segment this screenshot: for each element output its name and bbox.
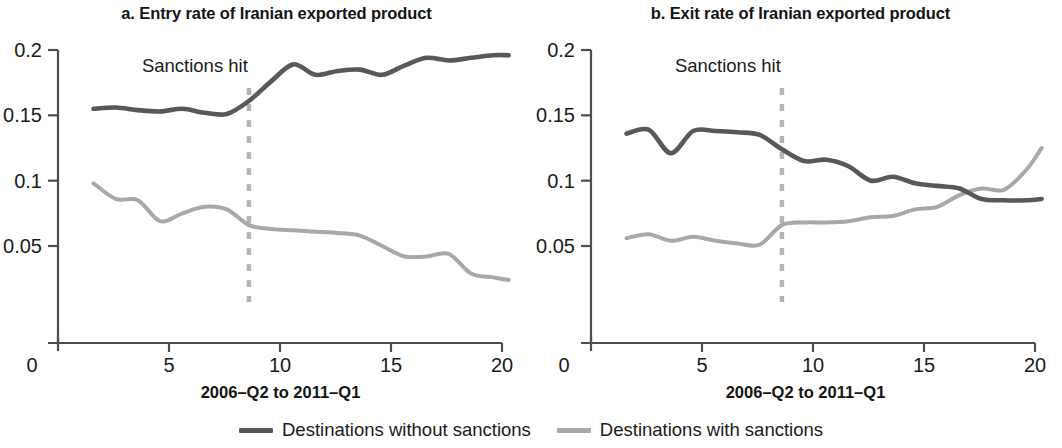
legend-item-without-sanctions: Destinations without sanctions	[239, 421, 531, 440]
legend-label-with-sanctions: Destinations with sanctions	[600, 421, 823, 440]
y-tick-label: 0.15	[531, 105, 575, 125]
legend-swatch-line-icon	[239, 428, 273, 433]
legend-item-with-sanctions: Destinations with sanctions	[557, 421, 823, 440]
y-tick-label: 0	[531, 355, 597, 375]
series-line-with-sanctions	[94, 183, 509, 280]
x-tick-label: 5	[144, 355, 194, 375]
y-tick-label: 0.1	[531, 171, 575, 191]
y-tick-label: 0.05	[531, 236, 575, 256]
x-tick-label: 5	[677, 355, 727, 375]
legend-swatch-line-icon	[557, 428, 591, 433]
chart-legend: Destinations without sanctions Destinati…	[0, 412, 1062, 448]
legend-label-without-sanctions: Destinations without sanctions	[282, 421, 531, 440]
chart-panel-a: a. Entry rate of Iranian exported produc…	[0, 0, 531, 410]
panel-a-plot	[0, 0, 531, 410]
sanctions-hit-annotation: Sanctions hit	[142, 57, 248, 76]
figure-root: a. Entry rate of Iranian exported produc…	[0, 0, 1062, 448]
x-tick-label: 20	[1010, 355, 1060, 375]
x-tick-label: 15	[899, 355, 949, 375]
x-tick-label: 15	[366, 355, 416, 375]
panel-b-plot	[531, 0, 1062, 410]
y-tick-label: 0	[0, 355, 64, 375]
y-tick-label: 0.1	[0, 171, 42, 191]
x-tick-label: 10	[255, 355, 305, 375]
y-tick-label: 0.2	[531, 40, 575, 60]
chart-panel-b: b. Exit rate of Iranian exported product…	[531, 0, 1062, 410]
panel-a-xaxis-title: 2006–Q2 to 2011–Q1	[0, 383, 531, 402]
y-tick-label: 0.05	[0, 236, 42, 256]
x-tick-label: 20	[477, 355, 527, 375]
x-tick-label: 10	[788, 355, 838, 375]
sanctions-hit-annotation: Sanctions hit	[675, 57, 781, 76]
y-tick-label: 0.2	[0, 40, 42, 60]
y-tick-label: 0.15	[0, 105, 42, 125]
panel-b-xaxis-title: 2006–Q2 to 2011–Q1	[531, 383, 1062, 402]
panels-container: a. Entry rate of Iranian exported produc…	[0, 0, 1062, 410]
